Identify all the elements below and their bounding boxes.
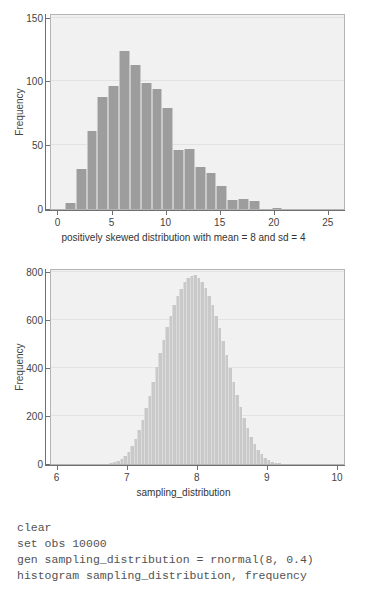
y-axis-tick (46, 145, 50, 146)
x-axis-tick-label: 25 (322, 217, 333, 228)
y-axis-tick-label: 400 (26, 363, 43, 374)
plot-area-2 (50, 269, 345, 465)
code-line: set obs 10000 (17, 536, 367, 552)
y-axis-tick-label: 50 (32, 140, 43, 151)
x-axis-tick (197, 466, 198, 470)
y-axis-title-2: Frequency (14, 343, 25, 390)
code-line: clear (17, 520, 367, 536)
histogram-bar (249, 201, 260, 209)
bars-2 (51, 270, 344, 464)
histogram-bar (119, 51, 130, 209)
histogram-bar (141, 83, 152, 209)
x-axis-tick-label: 6 (54, 472, 60, 483)
x-axis-tick-label: 20 (268, 217, 279, 228)
x-axis-tick-label: 9 (264, 472, 270, 483)
x-axis-spine-1 (45, 210, 345, 211)
y-axis-tick (46, 18, 50, 19)
x-axis-tick (112, 211, 113, 215)
x-axis-tick (57, 211, 58, 215)
histogram-bar (195, 167, 206, 209)
x-axis-tick-label: 0 (55, 217, 61, 228)
histogram-bar (238, 199, 249, 209)
histogram-bar (162, 108, 173, 209)
page-root: 0501001500510152025 Frequency positively… (0, 0, 367, 604)
x-axis-tick-label: 10 (160, 217, 171, 228)
histogram-bar (277, 463, 281, 464)
code-line: gen sampling_distribution = rnormal(8, 0… (17, 552, 367, 568)
y-axis-tick (46, 81, 50, 82)
x-axis-tick (127, 466, 128, 470)
histogram-bar (97, 97, 108, 209)
histogram-bar (87, 131, 98, 209)
histogram-bar (108, 86, 119, 209)
x-axis-tick (337, 466, 338, 470)
y-axis-tick-label: 600 (26, 315, 43, 326)
y-axis-tick-label: 100 (26, 76, 43, 87)
histogram-bar (173, 150, 184, 209)
code-line: histogram sampling_distribution, frequen… (17, 568, 367, 584)
x-axis-tick (274, 211, 275, 215)
y-axis-tick-label: 0 (37, 459, 43, 470)
histogram-bar (206, 173, 217, 209)
y-axis-tick-label: 800 (26, 267, 43, 278)
y-axis-tick-label: 200 (26, 411, 43, 422)
x-axis-tick (220, 211, 221, 215)
x-axis-tick-label: 7 (124, 472, 130, 483)
y-axis-tick-label: 150 (26, 12, 43, 23)
y-axis-tick-label: 0 (37, 204, 43, 215)
x-axis-spine-2 (45, 465, 345, 466)
x-axis-title-1: positively skewed distribution with mean… (0, 232, 367, 243)
x-axis-tick (328, 211, 329, 215)
chart-positively-skewed-histogram: 0501001500510152025 Frequency positively… (0, 0, 367, 252)
x-axis-tick-label: 8 (194, 472, 200, 483)
x-axis-tick (57, 466, 58, 470)
y-axis-tick (46, 320, 50, 321)
y-axis-tick (46, 209, 50, 210)
histogram-bar (184, 149, 195, 209)
histogram-bar (216, 186, 227, 209)
y-axis-title-1: Frequency (14, 88, 25, 135)
x-axis-tick (166, 211, 167, 215)
y-axis-tick (46, 368, 50, 369)
y-axis-tick (46, 272, 50, 273)
x-axis-tick-label: 5 (109, 217, 115, 228)
y-axis-tick (46, 464, 50, 465)
y-axis-tick (46, 416, 50, 417)
stata-code-listing: clear set obs 10000 gen sampling_distrib… (0, 508, 367, 604)
bars-1 (51, 15, 344, 209)
histogram-bar (130, 65, 141, 209)
x-axis-tick (267, 466, 268, 470)
histogram-bar (65, 203, 76, 209)
histogram-bar (272, 208, 283, 209)
y-axis-spine-2 (45, 269, 46, 465)
plot-area-1 (50, 14, 345, 210)
x-axis-title-2: sampling_distribution (0, 487, 367, 498)
y-axis-spine-1 (45, 14, 46, 210)
histogram-bar (152, 89, 163, 209)
x-axis-tick-label: 10 (331, 472, 342, 483)
histogram-bar (227, 200, 238, 209)
histogram-bar (76, 169, 87, 209)
chart-sampling-distribution-histogram: 0200400600800678910 Frequency sampling_d… (0, 255, 367, 507)
x-axis-tick-label: 15 (214, 217, 225, 228)
